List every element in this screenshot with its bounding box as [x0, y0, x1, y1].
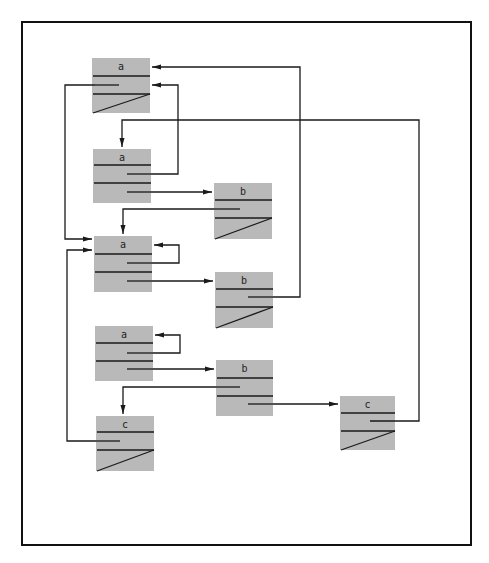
node-a2: a [93, 149, 151, 203]
arrowhead-icon [83, 237, 92, 242]
edge-a3-to-a3 [152, 243, 179, 264]
node-a4: a [95, 326, 153, 381]
edge-a4-to-b3 [153, 367, 214, 372]
edge-b3-to-c1 [121, 387, 217, 414]
node-c1: c [96, 416, 154, 471]
arrowhead-icon [154, 243, 163, 248]
edge-b3-to-c2 [273, 402, 338, 407]
node-label: b [240, 186, 246, 197]
edge-b2-to-a1 [152, 65, 300, 298]
node-label: a [118, 61, 124, 72]
arrowhead-icon [203, 190, 212, 195]
arrowhead-icon [152, 65, 161, 70]
node-label: b [241, 275, 247, 286]
arrowhead-icon [121, 225, 126, 234]
node-b3: b [216, 360, 273, 416]
node-c2: c [340, 396, 405, 450]
node-a3: a [94, 236, 152, 292]
edge-a2-to-a1 [151, 83, 178, 175]
node-b2: b [215, 272, 273, 328]
edge-a1-to-a3 [65, 85, 95, 242]
arrowhead-icon [121, 405, 126, 414]
linked-structure-diagram: aabababcc [0, 0, 489, 563]
arrowhead-icon [152, 83, 161, 88]
edge-a2-to-b1 [151, 190, 212, 195]
edge-b1-to-a3 [121, 209, 215, 234]
connector-line [153, 335, 180, 353]
node-label: a [119, 152, 125, 163]
connector-line [151, 85, 178, 174]
node-label: c [364, 399, 370, 410]
connector-line [65, 85, 95, 239]
connector-line [152, 245, 179, 263]
arrowhead-icon [329, 402, 338, 407]
edge-a4-to-a4 [153, 333, 180, 354]
node-a1: a [92, 58, 150, 113]
node-label: a [120, 239, 126, 250]
node-label: c [122, 419, 128, 430]
edge-a3-to-b2 [152, 279, 213, 284]
arrowhead-icon [155, 333, 164, 338]
arrowhead-icon [204, 279, 213, 284]
node-label: b [241, 363, 247, 374]
edge-c1-to-a3 [67, 248, 96, 442]
node-b1: b [214, 183, 272, 239]
connector-line [123, 387, 216, 414]
arrowhead-icon [205, 367, 214, 372]
node-label: a [121, 329, 127, 340]
arrowhead-icon [83, 248, 92, 253]
connector-line [123, 209, 214, 234]
connector-line [67, 250, 96, 441]
arrowhead-icon [120, 138, 125, 147]
